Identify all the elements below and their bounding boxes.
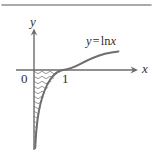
x-axis-label: x bbox=[142, 62, 148, 75]
origin-label: 0 bbox=[21, 72, 28, 85]
equation-argument: x bbox=[110, 34, 116, 48]
curve-equation-label: y = lnx bbox=[86, 35, 116, 48]
y-axis-label: y bbox=[30, 15, 36, 28]
equation-equals: = bbox=[93, 34, 100, 48]
figure-container: 0 1 y x y = lnx bbox=[0, 0, 156, 155]
equation-function-name: ln bbox=[101, 34, 111, 48]
x-tick-label-one: 1 bbox=[62, 72, 69, 85]
ln-curve-path bbox=[35, 51, 118, 148]
